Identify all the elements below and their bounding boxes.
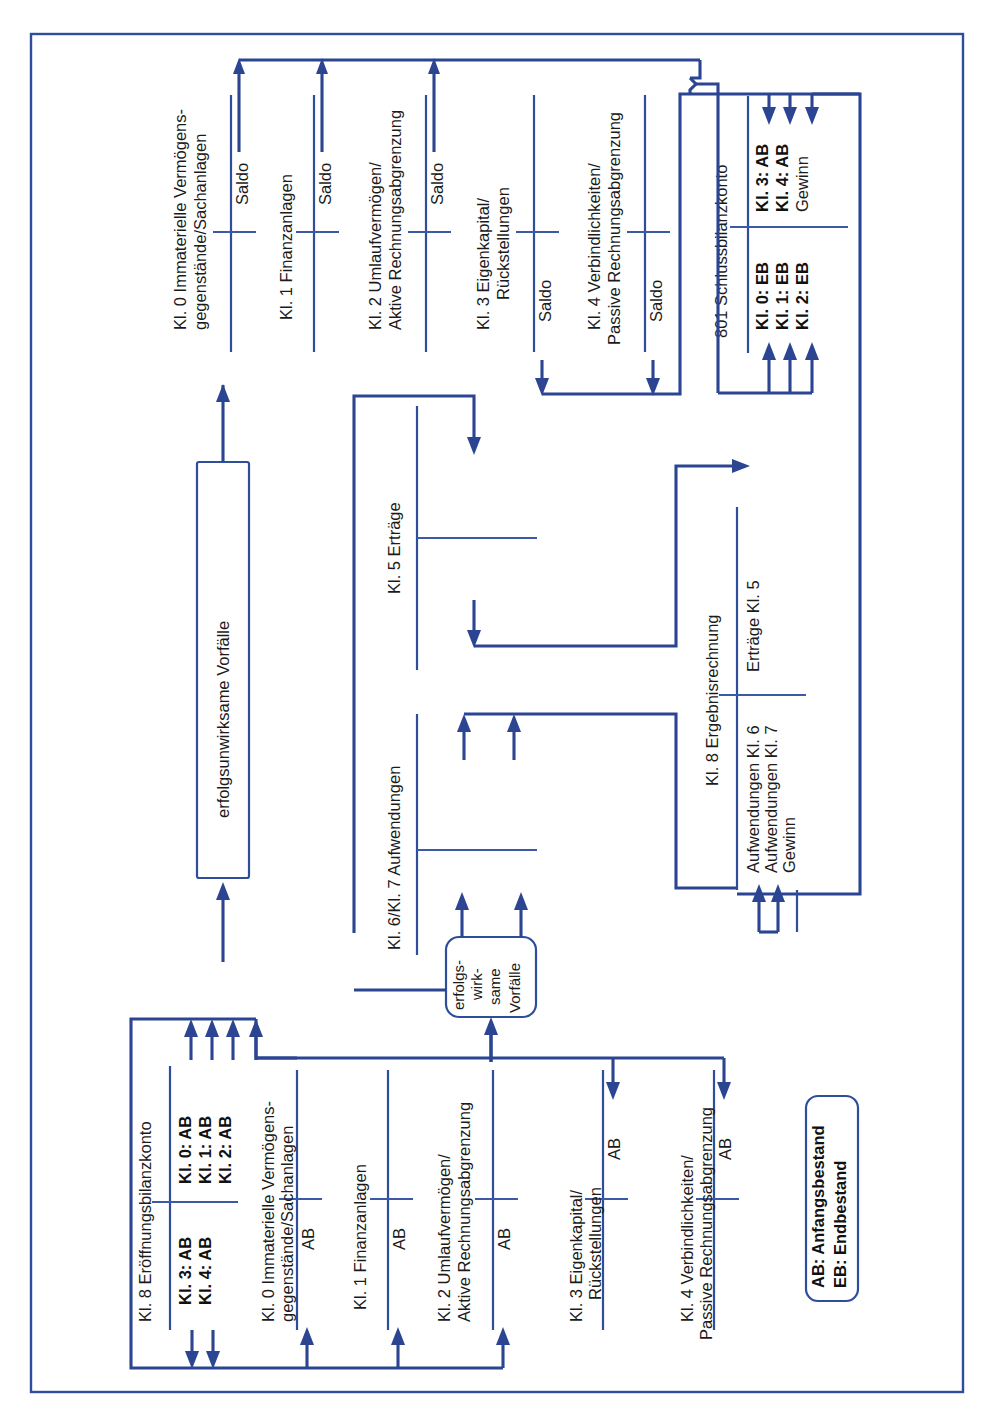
process-box-erfolgswirksam-line1: erfolgs- (450, 960, 467, 1010)
taccount-bot-kl3-name-line2: Rückstellungen (586, 1187, 604, 1300)
arrowhead-bot-kl1-in (391, 1327, 405, 1345)
arrowhead-ergebnis-ertraege-in (732, 459, 750, 473)
taccount-bot-kl2-name-line2: Aktive Rechnungsabgrenzung (455, 1102, 473, 1322)
taccount-kl5-name: Kl. 5 Erträge (385, 502, 403, 594)
arrowhead-sbk-eb1 (783, 342, 797, 360)
arrowhead-bot-kl2-in (496, 1327, 510, 1345)
arrowhead-unwirksam-in (216, 882, 230, 900)
taccount-top-kl2-name-line2: Aktive Rechnungsabgrenzung (386, 110, 404, 330)
taccount-top-kl0-entry: Saldo (233, 163, 251, 205)
process-box-erfolgswirksam-line2: wirk- (468, 968, 485, 1001)
arrowhead-bot-kl4-in (717, 1082, 731, 1100)
taccount-bot-kl3-name-line1: Kl. 3 Eigenkapital/ (567, 1190, 585, 1322)
taccount-kl67-name: Kl. 6/Kl. 7 Aufwendungen (385, 766, 403, 950)
ergebnis-debit-0: Aufwendungen Kl. 6 (744, 725, 762, 873)
taccount-ergebnis-name: Kl. 8 Ergebnisrechnung (703, 614, 721, 786)
sbk-credit-1: Kl. 4: AB (773, 144, 791, 212)
arrowhead-wirksam-up-right (514, 892, 528, 910)
taccount-bot-kl2-entry: AB (495, 1228, 513, 1250)
taccount-bot-kl3-entry: AB (605, 1138, 623, 1160)
taccount-top-kl0-name-line2: gegenstände/Sachanlagen (191, 134, 209, 330)
taccount-top-kl0-name-line1: Kl. 0 Immaterielle Vermögens- (171, 109, 189, 330)
taccount-bot-kl2-name-line1: Kl. 2 Umlaufvermögen/ (435, 1154, 453, 1322)
ergebnis-debit-1: Aufwendungen Kl. 7 (762, 725, 780, 873)
arrowhead-ebk-kl3-down (185, 1351, 199, 1369)
bus-kl5-to-ergebnis (474, 466, 736, 646)
arrowhead-ebk-ab2 (226, 1019, 240, 1037)
sbk-debit-2: Kl. 2: EB (793, 262, 811, 330)
taccount-bot-kl0-name-line1: Kl. 0 Immaterielle Vermögens- (259, 1101, 277, 1322)
taccount-bot-kl0-entry: AB (299, 1228, 317, 1250)
sbk-credit-0: Kl. 3: AB (753, 144, 771, 212)
legend-line-1: AB: Anfangsbestand (809, 1125, 827, 1288)
ebk-credit-1: Kl. 1: AB (196, 1116, 214, 1184)
ergebnis-debit-2: Gewinn (780, 817, 798, 873)
bus-ergebnis-to-kl67 (464, 714, 737, 888)
arrowhead-sbk-eb2 (805, 342, 819, 360)
ergebnis-credit-0: Erträge Kl. 5 (744, 580, 762, 672)
taccount-top-kl1-name-line1: Kl. 1 Finanzanlagen (277, 174, 295, 320)
process-box-erfolgswirksam-line4: Vorfälle (506, 963, 523, 1013)
taccount-bot-kl1-name-line1: Kl. 1 Finanzanlagen (351, 1164, 369, 1310)
arrowhead-bot-kl3-in (606, 1082, 620, 1100)
ebk-credit-2: Kl. 2: AB (216, 1116, 234, 1184)
ebk-credit-0: Kl. 0: AB (176, 1116, 194, 1184)
accounting-cycle-diagram: Kl. 0 Immaterielle Vermögens- gegenständ… (0, 0, 986, 1419)
taccount-top-kl4-name-line2: Passive Rechnungsabgrenzung (605, 112, 623, 345)
taccount-sbk-name: 801 Schlussbilanzkonto (712, 165, 730, 338)
taccount-top-kl3-entry: Saldo (536, 280, 554, 322)
taccount-bot-kl4-name-line2: Passive Rechnungsabgrenzung (697, 1107, 715, 1340)
bus-kl5-left-feed (354, 396, 474, 933)
arrowhead-wirksam-up-left (455, 892, 469, 910)
arrowhead-sbk-kl3 (762, 107, 776, 125)
diagram-page: Kl. 0 Immaterielle Vermögens- gegenständ… (0, 0, 986, 1419)
taccount-bot-kl1-entry: AB (390, 1228, 408, 1250)
taccount-top-kl3-name-line2: Rückstellungen (494, 187, 512, 300)
taccount-ebk-name: Kl. 8 Eröffnungsbilanzkonto (136, 1121, 154, 1322)
arrowhead-bot-kl0-in (300, 1327, 314, 1345)
arrowhead-kl5-in (467, 437, 481, 455)
ebk-debit-1: Kl. 4: AB (196, 1237, 214, 1305)
sbk-debit-1: Kl. 1: EB (773, 262, 791, 330)
taccount-top-kl3-name-line1: Kl. 3 Eigenkapital/ (474, 198, 492, 330)
taccount-top-kl4-name-line1: Kl. 4 Verbindlichkeiten/ (585, 163, 603, 330)
sbk-credit-2: Gewinn (793, 156, 811, 212)
taccount-top-kl1-entry: Saldo (316, 163, 334, 205)
sbk-left-bracket (690, 78, 696, 94)
bus-top-right-drop (690, 60, 700, 78)
taccount-top-kl2-name-line1: Kl. 2 Umlaufvermögen/ (366, 162, 384, 330)
arrowhead-ebk-ab1 (205, 1019, 219, 1037)
arrowhead-sbk-kl4 (783, 107, 797, 125)
arrowhead-ebk-ab0 (184, 1019, 198, 1037)
taccount-top-kl2-entry: Saldo (428, 163, 446, 205)
process-box-erfolgswirksam-line3: same (486, 968, 503, 1005)
arrowhead-ebk-kl4-down (206, 1351, 220, 1369)
ebk-debit-0: Kl. 3: AB (176, 1237, 194, 1305)
taccount-bot-kl4-entry: AB (716, 1138, 734, 1160)
taccount-bot-kl4-name-line1: Kl. 4 Verbindlichkeiten/ (678, 1155, 696, 1322)
sbk-debit-0: Kl. 0: EB (753, 262, 771, 330)
legend-line-2: EB: Endbestand (831, 1161, 849, 1288)
arrowhead-sbk-gewinn (805, 107, 819, 125)
arrowhead-kl7-in (507, 714, 521, 732)
arrowhead-kl6-in (457, 714, 471, 732)
arrowhead-sbk-eb0 (762, 342, 776, 360)
bus-ebk-to-bottom-accounts (256, 1019, 297, 1058)
taccount-top-kl4-entry: Saldo (647, 280, 665, 322)
taccount-bot-kl0-name-line2: gegenstände/Sachanlagen (278, 1126, 296, 1322)
process-box-erfolgsunwirksam-label: erfolgsunwirksame Vorfälle (214, 621, 232, 818)
